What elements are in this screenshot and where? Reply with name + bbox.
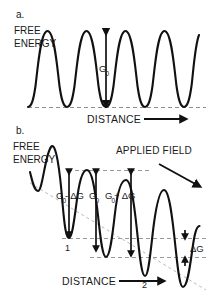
barrier-nominal-sub: 0 (96, 197, 100, 204)
panel-b-label: b. (16, 125, 24, 136)
panel-b: b. FREE ENERGY APPLIED FIELD G (13, 125, 206, 290)
panel-a-label: a. (16, 9, 24, 20)
panel-b-ylabel-line1: FREE (13, 141, 40, 152)
free-energy-diagram: a. FREE ENERGY G 0 DISTANCE b. FREE ENER… (0, 0, 212, 296)
panel-a: a. FREE ENERGY G 0 DISTANCE (14, 9, 206, 125)
applied-field-arrow (159, 164, 199, 186)
figure-container: a. FREE ENERGY G 0 DISTANCE b. FREE ENER… (0, 0, 212, 296)
panel-b-xlabel: DISTANCE (62, 275, 116, 287)
panel-a-barrier-subscript: 0 (106, 70, 110, 77)
well-label-1: 1 (65, 243, 70, 253)
barrier-label-nominal: G 0 (89, 190, 100, 204)
barrier-forward-suffix: - ΔG (65, 190, 84, 201)
applied-field-label: APPLIED FIELD (116, 145, 192, 156)
panel-a-ylabel-line2: ENERGY (14, 38, 57, 49)
panel-b-energy-curve (30, 146, 200, 287)
barrier-label-forward: G 0 - ΔG (56, 190, 84, 204)
barrier-reverse-suffix: + ΔG (114, 190, 135, 201)
panel-b-ylabel-line2: ENERGY (13, 154, 56, 165)
panel-a-ylabel-line1: FREE (14, 25, 41, 36)
delta-g-label: ΔG (190, 243, 204, 254)
panel-a-xlabel: DISTANCE (87, 113, 141, 125)
panel-a-energy-curve (28, 31, 199, 107)
